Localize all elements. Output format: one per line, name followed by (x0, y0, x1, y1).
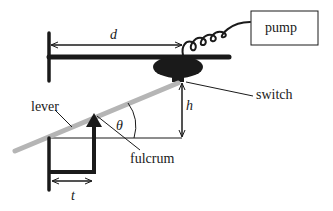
switch-label: switch (256, 87, 293, 102)
lever (15, 83, 178, 151)
t-label: t (71, 188, 76, 203)
switch-leader (186, 82, 253, 96)
lever-label: lever (31, 99, 59, 114)
coil-wire (183, 22, 250, 55)
h-label: h (186, 98, 193, 113)
pump-label: pump (265, 20, 297, 35)
theta-label: θ (116, 118, 123, 133)
lever-switch-diagram: d pump switch h lever θ fulcrum t (0, 0, 333, 211)
d-label: d (110, 27, 118, 42)
theta-arc (128, 103, 136, 138)
fulcrum-label: fulcrum (130, 151, 174, 166)
